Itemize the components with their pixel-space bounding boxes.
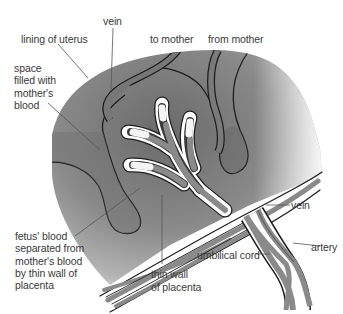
label-vein-top: vein <box>103 15 122 27</box>
label-vein-right: vein <box>291 199 310 211</box>
placenta-diagram: vein lining of uterus to mother from mot… <box>0 0 343 314</box>
label-space-filled-with-mothers-blood: space filled with mother's blood <box>14 62 56 111</box>
label-fetus-blood-separated: fetus' blood separated from mother's blo… <box>15 230 84 291</box>
label-artery: artery <box>311 241 337 253</box>
label-lining-of-uterus: lining of uterus <box>21 33 88 45</box>
label-thin-wall-of-placenta: thin wall of placenta <box>151 268 201 293</box>
label-umbilical-cord: umbilical cord <box>197 249 260 261</box>
label-from-mother: from mother <box>208 33 264 45</box>
label-to-mother: to mother <box>150 33 193 45</box>
